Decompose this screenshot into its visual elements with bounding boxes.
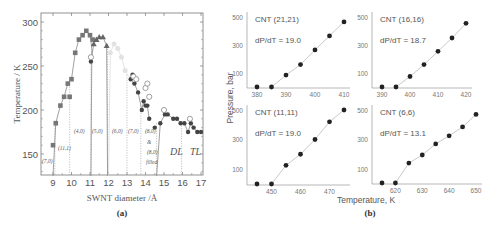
- slope-label: dP/dT = 18.7: [380, 36, 426, 45]
- data-point: [436, 49, 441, 54]
- panel-b-label: (b): [365, 208, 376, 218]
- data-point-faded: [112, 42, 117, 47]
- data-point-square: [73, 51, 78, 56]
- x-tick-label: 630: [417, 187, 428, 194]
- data-point-circle: [175, 117, 179, 121]
- data-point: [408, 74, 413, 79]
- subplot-title: CNT (21,21): [255, 15, 299, 24]
- data-point: [298, 152, 303, 157]
- panel-a: 91011121314151617150200250300(7,0)(11,1)…: [12, 13, 206, 218]
- data-point: [460, 125, 465, 130]
- data-point-square: [58, 103, 63, 108]
- x-tick-label: 14: [140, 177, 151, 188]
- subplot-title: CNT (6,6): [380, 108, 415, 117]
- data-point-square: [62, 95, 67, 100]
- x-tick-label: 11: [85, 177, 95, 188]
- data-point-open-circle: [161, 107, 166, 112]
- data-point: [380, 85, 385, 90]
- x-tick-label: 460: [295, 188, 306, 195]
- fit-line: [272, 22, 345, 87]
- data-point-square: [66, 81, 71, 86]
- subplot-3: 100300500450460470CNT (11,11)dP/dT = 19.…: [232, 105, 350, 195]
- data-point-faded: [123, 68, 128, 73]
- data-point: [327, 119, 332, 124]
- y-tick-label: 300: [232, 42, 243, 49]
- y-tick-label: 150: [22, 149, 38, 160]
- y-tick-label: 100: [357, 70, 368, 77]
- region-label: &: [147, 139, 152, 145]
- data-point: [298, 62, 303, 67]
- y-tick-label: 300: [357, 42, 368, 49]
- panel-a-label: (a): [117, 208, 128, 218]
- y-tick-label: 300: [22, 17, 38, 28]
- data-point-square: [53, 121, 58, 126]
- x-tick-label: 420: [461, 91, 472, 98]
- data-point: [255, 85, 260, 90]
- data-point: [380, 181, 385, 186]
- x-tick-label: 470: [324, 188, 335, 195]
- subplot-2: 100300500390400410420CNT (16,16)dP/dT = …: [357, 12, 472, 98]
- x-tick-label: 380: [252, 91, 263, 98]
- data-point-circle: [166, 112, 170, 116]
- slope-label: dP/dT = 19.0: [255, 129, 301, 138]
- data-point: [269, 85, 274, 90]
- data-point-faded: [115, 46, 120, 51]
- region-label: (11,1): [58, 145, 71, 152]
- y-tick-label: 300: [232, 136, 243, 143]
- data-point-circle: [141, 99, 145, 103]
- region-label: (6,0): [112, 128, 123, 135]
- x-tick-label: 640: [444, 187, 455, 194]
- x-tick-label: 410: [433, 91, 444, 98]
- subplot-title: CNT (11,11): [255, 108, 298, 117]
- data-point-circle: [145, 103, 149, 107]
- data-point: [342, 20, 347, 25]
- data-point: [394, 85, 399, 90]
- data-point-circle: [199, 130, 203, 134]
- y-tick-label: 200: [22, 105, 38, 116]
- x-tick-label: 410: [339, 91, 350, 98]
- data-point-square: [80, 33, 85, 38]
- slope-label: dP/dT = 13.1: [380, 129, 426, 138]
- region-label: (5,0): [92, 128, 103, 135]
- subplot-title: CNT (16,16): [380, 15, 424, 24]
- data-point-square: [67, 95, 72, 100]
- region-label: filled: [146, 159, 158, 165]
- data-point: [284, 163, 289, 168]
- x-tick-label: 390: [377, 91, 388, 98]
- y-tick-label: 500: [357, 107, 368, 114]
- data-point-square: [88, 33, 93, 38]
- subplot-4: 100300500620630640650CNT (6,6)dP/dT = 13…: [357, 105, 482, 194]
- x-tick-label: 9: [50, 177, 55, 188]
- x-tick-label: 390: [281, 91, 292, 98]
- data-point: [422, 62, 427, 67]
- region-label: TL: [190, 146, 202, 157]
- y-tick-label: 500: [357, 14, 368, 21]
- region-label: (4,0): [74, 128, 85, 135]
- data-point: [313, 137, 318, 142]
- x-axis-label: SWNT diameter /Å: [87, 193, 158, 203]
- figure: 91011121314151617150200250300(7,0)(11,1)…: [0, 0, 490, 225]
- y-tick-label: 100: [357, 166, 368, 173]
- data-point-circle: [186, 130, 190, 134]
- data-point: [327, 34, 332, 39]
- data-point: [433, 142, 438, 147]
- data-point: [393, 181, 398, 186]
- x-axis-label: Temperature, K: [337, 195, 395, 205]
- x-tick-label: 12: [103, 177, 114, 188]
- data-point: [284, 73, 289, 78]
- x-tick-label: 400: [310, 91, 321, 98]
- x-tick-label: 17: [196, 177, 207, 188]
- x-tick-label: 450: [266, 188, 277, 195]
- data-point: [313, 48, 318, 53]
- data-point: [269, 182, 274, 187]
- region-label: DL: [169, 146, 183, 157]
- x-tick-label: 650: [471, 187, 482, 194]
- y-tick-label: 300: [357, 136, 368, 143]
- data-point-triangle: [104, 43, 110, 48]
- fit-line: [272, 110, 345, 184]
- region-label: (7,0): [42, 158, 53, 165]
- data-point-open-circle: [145, 81, 150, 86]
- y-tick-label: 500: [232, 14, 243, 21]
- y-axis-label: Pressure, bar: [225, 72, 235, 123]
- x-tick-label: 620: [390, 187, 401, 194]
